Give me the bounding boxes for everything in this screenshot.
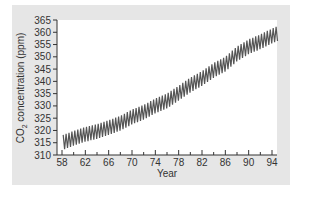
y-tick-label: 360	[34, 27, 51, 38]
y-tick-label: 355	[34, 39, 51, 50]
y-tick-label: 330	[34, 100, 51, 111]
x-tick-label: 90	[243, 157, 255, 168]
y-axis: 310315320325330335340345350355360365	[34, 15, 57, 161]
y-tick-label: 350	[34, 51, 51, 62]
y-tick-label: 340	[34, 76, 51, 87]
x-tick-label: 82	[196, 157, 208, 168]
y-tick-label: 345	[34, 64, 51, 75]
x-tick-label: 66	[103, 157, 115, 168]
y-tick-label: 325	[34, 113, 51, 124]
x-tick-label: 78	[173, 157, 185, 168]
x-axis-title: Year	[157, 168, 178, 179]
y-tick-label: 335	[34, 88, 51, 99]
x-tick-label: 62	[80, 157, 92, 168]
y-tick-label: 315	[34, 137, 51, 148]
y-tick-label: 310	[34, 150, 51, 161]
y-tick-label: 365	[34, 15, 51, 26]
y-tick-label: 320	[34, 125, 51, 136]
x-tick-label: 58	[56, 157, 68, 168]
y-axis-title: CO2 concentration (ppm)	[15, 33, 28, 144]
x-tick-label: 86	[220, 157, 232, 168]
co2-chart: 310315320325330335340345350355360365 586…	[0, 0, 313, 198]
x-tick-label: 70	[126, 157, 138, 168]
x-tick-label: 74	[150, 157, 162, 168]
x-tick-label: 94	[266, 157, 278, 168]
